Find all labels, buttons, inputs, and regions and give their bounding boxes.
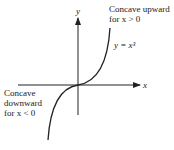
y-axis-label: y	[76, 6, 80, 16]
upper-annotation-line2: for x > 0	[109, 14, 170, 24]
upper-annotation-line1: Concave upward	[109, 4, 170, 14]
lower-annotation: Concave downward for x < 0	[4, 88, 42, 118]
curve-label: y = x³	[114, 40, 135, 50]
cubic-curve	[48, 28, 110, 140]
upper-annotation: Concave upward for x > 0	[109, 4, 170, 24]
lower-annotation-line1: Concave	[4, 88, 42, 98]
x-axis-label: x	[143, 80, 147, 90]
lower-annotation-line3: for x < 0	[4, 108, 42, 118]
lower-annotation-line2: downward	[4, 98, 42, 108]
